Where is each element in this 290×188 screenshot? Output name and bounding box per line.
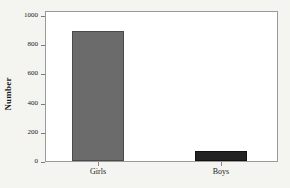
plot-area — [45, 11, 278, 162]
x-tick-mark — [98, 162, 99, 166]
x-tick-label-girls: Girls — [58, 167, 138, 176]
x-tick-label-boys: Boys — [181, 167, 261, 176]
bar-girls[interactable] — [72, 31, 124, 161]
y-tick-label: 1000 — [24, 11, 38, 20]
y-tick-label: 200 — [28, 128, 39, 137]
y-tick-label: 0 — [35, 157, 39, 166]
plot-inner — [46, 12, 277, 161]
x-tick-mark — [221, 162, 222, 166]
bar-boys[interactable] — [195, 151, 247, 161]
bar-chart-figure: Number 0 200 400 600 800 1000 — [0, 0, 290, 188]
y-tick-label: 400 — [28, 99, 39, 108]
y-tick-label: 600 — [28, 69, 39, 78]
y-tick-label: 800 — [28, 40, 39, 49]
y-tick-mark — [41, 162, 45, 163]
y-axis-title: Number — [0, 0, 16, 188]
